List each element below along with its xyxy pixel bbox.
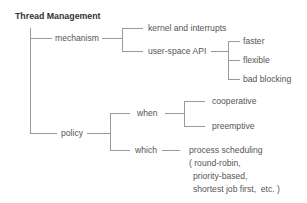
connector — [228, 79, 240, 80]
connector — [102, 38, 122, 39]
node-cooperative: cooperative — [212, 96, 256, 106]
node-process-scheduling-detail: shortest job first, etc. ) — [193, 184, 280, 194]
node-user-space-api: user-space API — [148, 46, 206, 56]
connector — [30, 133, 57, 134]
connector — [184, 126, 205, 127]
node-preemptive: preemptive — [212, 121, 255, 131]
connector — [184, 101, 205, 102]
connector — [162, 150, 180, 151]
mechanism-bracket — [122, 28, 123, 52]
connector — [228, 41, 240, 42]
policy-bracket — [110, 113, 111, 151]
connector — [30, 38, 52, 39]
node-which: which — [135, 145, 157, 155]
node-kernel-and-interrupts: kernel and interrupts — [148, 23, 226, 33]
connector — [211, 51, 228, 52]
node-process-scheduling: process scheduling — [189, 145, 263, 155]
connector — [122, 28, 143, 29]
node-mechanism: mechanism — [55, 33, 99, 43]
node-flexible: flexible — [243, 55, 270, 65]
node-faster: faster — [243, 36, 265, 46]
when-bracket — [184, 101, 185, 127]
node-policy: policy — [61, 128, 83, 138]
connector — [87, 133, 110, 134]
connector — [228, 60, 240, 61]
connector — [110, 113, 130, 114]
root-trunk-line — [30, 28, 31, 134]
diagram-title: Thread Management — [15, 11, 101, 21]
node-process-scheduling-detail: priority-based, — [193, 171, 247, 181]
node-when: when — [137, 108, 158, 118]
connector — [110, 150, 130, 151]
connector — [122, 51, 143, 52]
node-process-scheduling-detail: ( round-robin, — [189, 158, 241, 168]
node-bad-blocking: bad blocking — [243, 74, 291, 84]
connector — [165, 113, 184, 114]
